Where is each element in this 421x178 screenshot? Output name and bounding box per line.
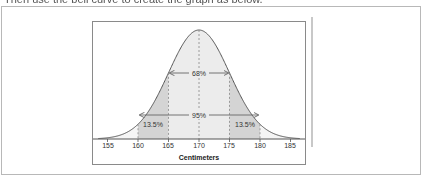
tick-label-160: 160: [132, 142, 144, 149]
tick-label-185: 185: [284, 142, 296, 149]
tick-label-165: 165: [162, 142, 174, 149]
label-13-5-left: 13.5%: [143, 121, 163, 128]
label-13-5-right: 13.5%: [235, 121, 255, 128]
x-axis-title: Centimeters: [179, 154, 220, 161]
tick-label-175: 175: [223, 142, 235, 149]
tick-label-170: 170: [193, 142, 205, 149]
label-68: 68%: [192, 70, 206, 77]
tick-label-155: 155: [102, 142, 114, 149]
tick-label-180: 180: [254, 142, 266, 149]
label-95: 95%: [192, 112, 206, 119]
